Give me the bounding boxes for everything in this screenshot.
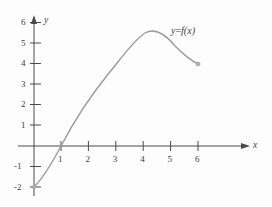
curve-label: y=f(x) <box>171 26 195 36</box>
curve-label-rhs: f(x) <box>181 25 195 36</box>
y-tick-label-neg-1: -1 <box>14 162 22 171</box>
y-tick-label-1: 1 <box>21 121 26 130</box>
x-tick-label-2: 2 <box>85 155 90 164</box>
x-tick-label-4: 4 <box>140 155 145 164</box>
y-tick-label-6: 6 <box>21 18 26 27</box>
curve-endpoint-marker <box>196 62 200 66</box>
x-axis-label: x <box>253 141 257 151</box>
y-tick-label-neg-2: -2 <box>14 183 22 192</box>
y-tick-label-2: 2 <box>21 100 26 109</box>
y-axis-ticks <box>30 23 41 188</box>
y-tick-label-3: 3 <box>21 80 26 89</box>
y-axis-label: y <box>44 16 48 26</box>
x-tick-label-1: 1 <box>58 155 63 164</box>
x-axis <box>18 143 250 149</box>
x-tick-label-6: 6 <box>195 155 200 164</box>
x-tick-label-5: 5 <box>168 155 173 164</box>
y-tick-label-4: 4 <box>21 59 26 68</box>
graph-figure: y x 6 5 4 3 2 1 -1 -2 1 2 3 4 5 6 y=f(x) <box>0 0 272 207</box>
x-tick-label-3: 3 <box>113 155 118 164</box>
y-axis <box>31 15 37 196</box>
plot-canvas <box>0 0 272 207</box>
curve-startpoint-marker <box>32 185 35 188</box>
y-tick-label-5: 5 <box>21 39 26 48</box>
x-axis-arrow-icon <box>241 143 250 149</box>
